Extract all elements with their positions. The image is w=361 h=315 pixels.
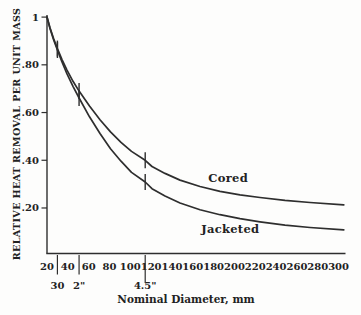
x-tick-label: 20 (40, 261, 54, 272)
x-submark-label: 30 (50, 280, 64, 291)
x-axis-title: Nominal Diameter, mm (117, 293, 254, 305)
x-tick-label: 120 (141, 261, 162, 272)
x-tick-label: 280 (307, 261, 328, 272)
y-tick-label: .20 (22, 202, 39, 213)
y-tick-label: 1 (32, 12, 39, 23)
x-tick-label: 160 (182, 261, 203, 272)
x-tick-label: 220 (245, 261, 266, 272)
jacketed-curve (47, 17, 344, 230)
x-tick-label: 240 (266, 261, 287, 272)
cored-curve (47, 17, 344, 205)
y-tick-label: .80 (22, 59, 39, 70)
x-tick-label: 80 (103, 261, 117, 272)
x-tick-label: 200 (224, 261, 245, 272)
x-tick-label: 140 (162, 261, 183, 272)
chart-svg: 1.80.60.40.20204060801001201401601802002… (0, 0, 361, 315)
x-tick-label: 60 (82, 261, 96, 272)
x-submark-label: 4.5" (134, 280, 157, 291)
x-tick-label: 180 (203, 261, 224, 272)
y-tick-label: .60 (22, 107, 39, 118)
x-tick-label: 300 (328, 261, 349, 272)
x-tick-label: 100 (120, 261, 141, 272)
jacketed-label: Jacketed (200, 222, 259, 236)
x-submark-label: 2" (73, 280, 85, 291)
cored-label: Cored (208, 171, 248, 185)
x-tick-label: 260 (286, 261, 307, 272)
heat-removal-vs-diameter-chart: 1.80.60.40.20204060801001201401601802002… (0, 0, 361, 315)
y-axis-title: RELATIVE HEAT REMOVAL PER UNIT MASS (11, 8, 22, 261)
y-tick-label: .40 (22, 155, 39, 166)
x-tick-label: 40 (61, 261, 75, 272)
